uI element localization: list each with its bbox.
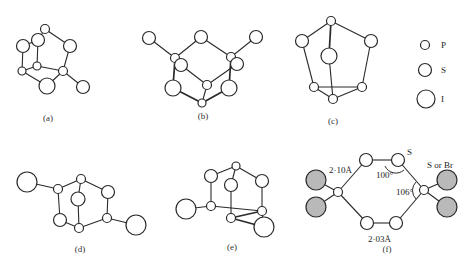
atom-x-icon xyxy=(306,170,326,190)
atom-p-icon xyxy=(203,81,212,90)
atom-p-icon xyxy=(207,202,216,211)
figure-canvas: (a)(b)(c)(d)(e)2·10Å2·03Å100°106°SS or B… xyxy=(0,0,476,272)
atom-x-icon xyxy=(437,197,457,217)
atom-p-icon xyxy=(198,99,206,107)
panel-caption-a: (a) xyxy=(43,113,53,123)
panel-caption-b: (b) xyxy=(198,111,209,121)
atom-s-icon xyxy=(360,154,373,167)
atom-s-icon xyxy=(64,40,77,53)
atom-p-icon xyxy=(358,83,367,92)
atom-s-icon xyxy=(32,34,45,47)
panel-c: (c) xyxy=(296,17,378,127)
panel-caption-d: (d) xyxy=(75,244,86,254)
legend-label-p: P xyxy=(441,40,446,50)
atom-i-icon xyxy=(176,199,196,219)
atom-p-icon xyxy=(310,83,319,92)
panel-caption-e: (e) xyxy=(227,242,237,252)
atom-p-icon xyxy=(258,207,267,216)
atom-s-icon xyxy=(195,31,208,44)
atom-p-icon xyxy=(327,17,336,26)
atom-i-icon xyxy=(221,80,237,96)
legend-label-s: S xyxy=(441,65,446,75)
atom-s-icon xyxy=(143,32,156,45)
atom-s-icon xyxy=(256,175,269,188)
atom-label-s-or-br: S or Br xyxy=(427,160,453,170)
atom-i-icon xyxy=(165,80,181,96)
atom-i-icon xyxy=(126,215,146,235)
atom-s-icon xyxy=(225,179,238,192)
bond-p2-p3 xyxy=(211,206,262,211)
atom-p-icon xyxy=(334,188,343,197)
atom-s-icon xyxy=(231,58,244,71)
atom-s-icon xyxy=(205,170,218,183)
atom-p-icon xyxy=(77,175,86,184)
atom-s-icon xyxy=(296,35,309,48)
atom-s-icon xyxy=(390,217,403,230)
atom-x-icon xyxy=(437,170,457,190)
structure-panels: (a)(b)(c)(d)(e)2·10Å2·03Å100°106°SS or B… xyxy=(17,17,458,255)
atom-s-icon xyxy=(175,59,188,72)
atom-s-icon xyxy=(392,154,405,167)
atom-i-icon xyxy=(17,172,37,192)
atom-s-icon xyxy=(77,81,90,94)
panel-caption-f: (f) xyxy=(383,244,392,254)
bond-length-s-s: 2·03Å xyxy=(368,234,391,244)
molecular-structures-diagram: (a)(b)(c)(d)(e)2·10Å2·03Å100°106°SS or B… xyxy=(0,0,476,272)
panel-caption-c: (c) xyxy=(328,116,338,126)
atom-p-icon xyxy=(227,214,236,223)
legend-i-icon xyxy=(417,90,435,108)
bond-length-p-s: 2·10Å xyxy=(329,165,352,175)
atom-p-icon xyxy=(33,62,41,70)
atom-p-icon xyxy=(75,224,84,233)
panel-b: (b) xyxy=(143,31,263,122)
atom-s-icon xyxy=(361,217,374,230)
atom-label-s: S xyxy=(407,147,412,157)
atom-p-icon xyxy=(41,25,50,34)
legend-s-icon xyxy=(419,64,432,77)
atom-p-icon xyxy=(59,67,68,76)
panel-a: (a) xyxy=(17,25,90,124)
atom-s-icon xyxy=(71,192,85,206)
atom-p-icon xyxy=(232,162,240,170)
atom-p-icon xyxy=(54,185,63,194)
atom-p-icon xyxy=(329,95,338,104)
legend-label-i: I xyxy=(441,94,444,104)
bond-s1-p2 xyxy=(302,41,314,87)
atom-i-icon xyxy=(17,40,30,53)
atom-p-icon xyxy=(18,67,26,75)
legend-p-icon xyxy=(421,41,430,50)
atom-legend: PSI xyxy=(417,40,446,108)
atom-s-icon xyxy=(54,214,67,227)
atom-i-icon xyxy=(254,217,274,237)
atom-s-icon xyxy=(250,31,263,44)
panel-e: (e) xyxy=(176,162,274,252)
atom-s-icon xyxy=(102,186,115,199)
angle-s: 100° xyxy=(376,170,394,180)
atom-p-icon xyxy=(103,214,112,223)
panel-f: 2·10Å2·03Å100°106°SS or Br(f) xyxy=(306,147,457,254)
atom-s-icon xyxy=(365,35,378,48)
angle-p: 106° xyxy=(396,187,414,197)
atom-i-icon xyxy=(321,48,337,64)
atom-i-icon xyxy=(39,78,55,94)
atom-p-icon xyxy=(420,186,429,195)
atom-x-icon xyxy=(306,197,326,217)
panel-d: (d) xyxy=(17,172,146,254)
